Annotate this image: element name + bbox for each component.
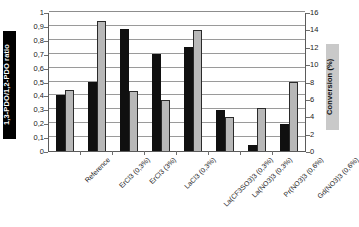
bar-group (49, 13, 81, 151)
right-tick-label: 2 (310, 131, 330, 139)
right-tick-label: 16 (310, 9, 330, 17)
right-tick-mark (306, 13, 310, 14)
category-axis-labels: ReferenceErCl3 (0,3%)ErCl3 (3%)LaCl3 (0,… (48, 156, 306, 226)
right-tick-label: 6 (310, 96, 330, 104)
category-tick-mark (208, 151, 209, 155)
bar-conversion (225, 117, 234, 151)
right-tick-label: 8 (310, 79, 330, 87)
right-tick-mark (306, 117, 310, 118)
left-tick-label: 0,2 (24, 120, 44, 128)
left-tick-label: 0,8 (24, 37, 44, 45)
bar-conversion (65, 90, 74, 151)
bar-ratio (216, 110, 225, 151)
bar-group (145, 13, 177, 151)
category-tick-mark (176, 151, 177, 155)
right-tick-label: 0 (310, 148, 330, 156)
left-tick-label: 0,5 (24, 79, 44, 87)
bar-ratio (88, 82, 97, 152)
left-tick-label: 0,4 (24, 92, 44, 100)
category-tick-mark (112, 151, 113, 155)
left-tick-label: 0,1 (24, 134, 44, 142)
right-tick-label: 4 (310, 113, 330, 121)
category-label: LaCl3 (0,3%) (183, 156, 217, 190)
bar-group (113, 13, 145, 151)
bar-conversion (129, 91, 138, 151)
category-label: Reference (83, 156, 111, 184)
left-tick-label: 0 (24, 148, 44, 156)
bar-conversion (161, 100, 170, 151)
bar-conversion (97, 21, 106, 151)
left-axis-title: 1,3-PDO/1,2-PDO ratio (3, 31, 16, 139)
plot-area (48, 13, 306, 152)
category-label: ErCl3 (3%) (148, 156, 177, 185)
bar-ratio (120, 29, 129, 151)
bar-conversion (257, 108, 266, 151)
bar-group (177, 13, 209, 151)
bar-ratio (280, 124, 289, 151)
bar-ratio (56, 95, 65, 151)
right-axis-ticks: 0246810121416 (310, 13, 334, 152)
left-tick-label: 0,9 (24, 23, 44, 31)
bar-ratio (248, 145, 257, 151)
category-tick-mark (144, 151, 145, 155)
left-tick-label: 0,3 (24, 106, 44, 114)
right-tick-mark (306, 65, 310, 66)
bar-ratio (184, 47, 193, 151)
bar-group (241, 13, 273, 151)
left-tick-label: 1 (24, 9, 44, 17)
left-axis-ticks: 00,10,20,30,40,50,60,70,80,91 (20, 13, 44, 152)
right-tick-label: 12 (310, 44, 330, 52)
bar-ratio (152, 54, 161, 151)
left-tick-mark (44, 152, 48, 153)
bar-group (81, 13, 113, 151)
right-tick-mark (306, 30, 310, 31)
bar-conversion (193, 30, 202, 151)
category-tick-mark (272, 151, 273, 155)
right-tick-mark (306, 135, 310, 136)
right-tick-mark (306, 48, 310, 49)
left-tick-label: 0,7 (24, 51, 44, 59)
right-tick-label: 10 (310, 61, 330, 69)
left-tick-label: 0,6 (24, 65, 44, 73)
bar-group (209, 13, 241, 151)
category-tick-mark (240, 151, 241, 155)
right-tick-label: 14 (310, 26, 330, 34)
bar-groups (49, 13, 305, 151)
right-tick-mark (306, 100, 310, 101)
category-label: ErCl3 (0,3%) (118, 156, 151, 189)
category-tick-mark (80, 151, 81, 155)
gridline (49, 11, 305, 12)
right-tick-mark (306, 83, 310, 84)
bar-group (273, 13, 305, 151)
right-tick-mark (306, 152, 310, 153)
bar-conversion (289, 82, 298, 151)
